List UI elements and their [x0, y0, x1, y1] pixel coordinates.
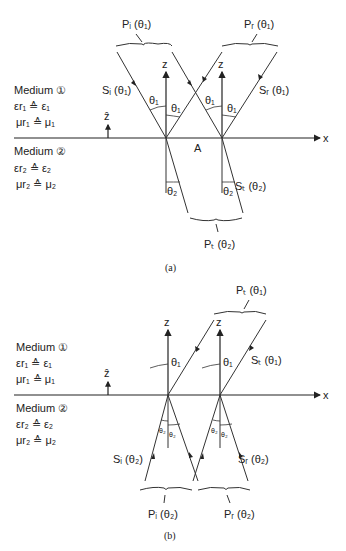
medium2-mu-a: μr₂ ≙ μ₂: [16, 178, 56, 190]
brace-Pi-a: [116, 43, 172, 46]
medium2-eps-a: εr₂ ≙ ε₂: [14, 162, 51, 174]
ray-incident-left-b: [145, 395, 168, 481]
medium2-label-b: Medium ②: [16, 402, 68, 414]
medium1-eps-b: εr₁ ≙ ε₁: [16, 357, 52, 369]
Si-label-b: Sᵢ (θ₂): [113, 453, 143, 465]
St-label-b: Sₜ (θ₁): [251, 354, 282, 366]
x-axis-label-a: x: [323, 132, 329, 144]
Pt-label-a: Pₜ (θ₂): [204, 238, 235, 250]
brace-Pr-a: [222, 43, 278, 46]
diagram-canvas: x ẑ Medium ① εr₁ ≙ ε₁ μr₁ ≙ μ₁ Medium ② …: [0, 0, 346, 551]
caption-a: (a): [165, 262, 176, 274]
medium1-label-b: Medium ①: [16, 341, 68, 353]
z-label-right-a: z: [218, 58, 224, 70]
St-label-a: Sₜ (θ₂): [235, 180, 266, 192]
medium1-label-a: Medium ①: [14, 84, 66, 96]
x-axis-label-b: x: [323, 389, 329, 401]
z-label-right-b: z: [216, 316, 222, 328]
wave-reflection-diagram: x ẑ Medium ① εr₁ ≙ ε₁ μr₁ ≙ μ₁ Medium ② …: [0, 0, 346, 551]
theta1-label-a1: θ₁: [149, 94, 159, 106]
theta1-label-b1: θ₁: [171, 356, 181, 368]
brace-Pt-a: [190, 218, 242, 221]
brace-Pr-b: [198, 487, 250, 490]
brace-Pt-b: [214, 311, 266, 314]
ray-reflected-left-b: [168, 395, 198, 481]
theta2-label-a2: θ₂: [223, 185, 233, 197]
medium2-label-a: Medium ②: [14, 145, 66, 157]
caption-b: (b): [164, 530, 176, 542]
point-A-label: A: [194, 142, 202, 154]
z-label-left-b: z: [164, 316, 170, 328]
Si-label-a: Sᵢ (θ₁): [102, 84, 131, 96]
medium2-mu-b: μr₂ ≙ μ₂: [16, 434, 56, 446]
theta2-label-b3: θ₂: [211, 427, 218, 434]
theta1-label-b2: θ₁: [223, 356, 233, 368]
Sr-label-b: Sᵣ (θ₂): [238, 453, 269, 465]
Pi-label-a: Pᵢ (θ₁): [122, 18, 151, 30]
medium1-mu-b: μr₁ ≙ μ₁: [16, 373, 55, 385]
theta2-label-b1: θ₂: [159, 427, 166, 434]
theta2-label-b4: θ₂: [221, 431, 228, 438]
Sr-label-a: Sᵣ (θ₁): [259, 84, 289, 96]
ray-transmitted-right-a: [222, 138, 243, 213]
brace-Pi-b: [140, 487, 192, 490]
zhat-label-a: ẑ: [104, 110, 110, 122]
medium1-eps-a: εr₁ ≙ ε₁: [14, 100, 50, 112]
theta2-label-b2: θ₂: [169, 431, 176, 438]
Pt-label-b: Pₜ (θ₁): [236, 284, 267, 296]
theta2-label-a1: θ₂: [167, 185, 177, 197]
Pr-label-b: Pᵣ (θ₂): [224, 508, 255, 520]
ray-transmitted-left-a: [166, 138, 188, 213]
Pi-label-b: Pᵢ (θ₂): [148, 508, 178, 520]
medium1-mu-a: μr₁ ≙ μ₁: [16, 116, 55, 128]
Pr-label-a: Pᵣ (θ₁): [244, 18, 274, 30]
ray-reflected-right-b: [220, 395, 248, 481]
theta1-label-a2: θ₁: [171, 102, 181, 114]
theta1-label-a4: θ₁: [227, 102, 237, 114]
figure-a: x ẑ Medium ① εr₁ ≙ ε₁ μr₁ ≙ μ₁ Medium ② …: [14, 18, 329, 274]
zhat-label-b: ẑ: [104, 367, 110, 379]
theta1-label-a3: θ₁: [205, 94, 215, 106]
medium2-eps-b: εr₂ ≙ ε₂: [16, 418, 53, 430]
figure-b: x ẑ Medium ① εr₁ ≙ ε₁ μr₁ ≙ μ₁ Medium ② …: [14, 284, 329, 542]
z-label-left-a: z: [162, 58, 168, 70]
ray-incident-right-b: [193, 395, 220, 481]
